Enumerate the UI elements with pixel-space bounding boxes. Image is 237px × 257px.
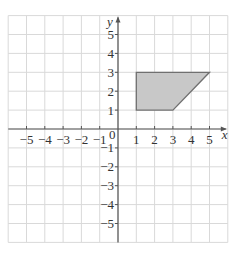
x-tick-label: 1 [133, 132, 140, 147]
x-tick-label: 4 [188, 132, 195, 147]
x-tick-label: −2 [74, 132, 88, 147]
coordinate-plane: −5−4−3−2−11234554321−1−2−3−4−5 x y 0 [0, 0, 237, 257]
x-tick-label: 3 [170, 132, 177, 147]
y-axis-label: y [105, 14, 113, 29]
x-tick-label: 5 [206, 132, 213, 147]
y-tick-label: −4 [100, 197, 114, 212]
y-tick-label: −5 [100, 216, 114, 231]
x-tick-label: −3 [56, 132, 70, 147]
y-tick-label: −2 [100, 159, 114, 174]
y-tick-label: 4 [108, 46, 115, 61]
origin-label: 0 [109, 127, 116, 142]
y-tick-label: 3 [108, 65, 115, 80]
x-tick-label: −5 [20, 132, 34, 147]
y-tick-label: 1 [108, 103, 115, 118]
axes [8, 17, 227, 243]
y-tick-label: −3 [100, 178, 114, 193]
y-tick-label: −1 [100, 140, 114, 155]
y-tick-label: 5 [108, 27, 115, 42]
y-tick-label: 2 [108, 84, 115, 99]
x-axis-label: x [221, 127, 228, 142]
x-tick-label: 2 [151, 132, 158, 147]
x-tick-label: −4 [38, 132, 52, 147]
y-axis-arrow-icon [116, 17, 121, 23]
